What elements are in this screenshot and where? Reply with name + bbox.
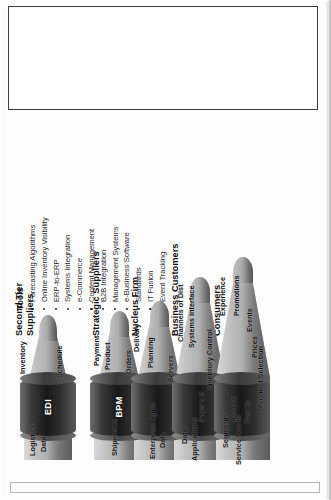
page-canvas: Tools Forecasting Algorithms Online Inve… [0, 0, 331, 500]
page-edge-shadow [0, 0, 331, 500]
